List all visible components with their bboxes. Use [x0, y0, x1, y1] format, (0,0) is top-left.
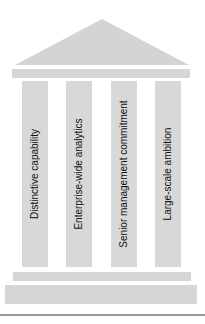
pillar-senior-management-commitment: Senior management commitment	[111, 81, 137, 267]
pillar-label: Enterprise-wide analytics	[73, 118, 85, 229]
pillar-large-scale-ambition: Large-scale ambition	[155, 81, 181, 267]
stylobate-step	[13, 272, 191, 281]
foundation-base	[5, 285, 197, 304]
pillar-enterprise-wide-analytics: Enterprise-wide analytics	[66, 81, 92, 267]
temple-diagram: Distinctive capability Enterprise-wide a…	[0, 0, 205, 324]
pillar-label: Distinctive capability	[29, 129, 41, 219]
entablature-bar	[12, 69, 190, 78]
pillar-distinctive-capability: Distinctive capability	[22, 81, 48, 267]
pillar-label: Large-scale ambition	[162, 128, 174, 221]
pillar-label: Senior management commitment	[118, 100, 130, 247]
divider-line	[0, 314, 205, 316]
roof-pediment	[0, 0, 205, 70]
